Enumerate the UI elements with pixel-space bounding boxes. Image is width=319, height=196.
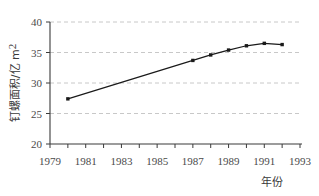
y-tick-labels: 40 35 30 25 20 [31, 16, 43, 150]
data-point-1989 [227, 48, 230, 51]
y-axis-title-group: 钉螺面积/亿 m2 [6, 44, 22, 122]
x-tick-label-1989: 1989 [218, 155, 241, 167]
data-point-1988 [209, 53, 212, 56]
y-axis-ticks [46, 22, 50, 144]
y-axis-title-main: 钉螺面积/亿 m [9, 49, 22, 122]
y-axis-title: 钉螺面积/亿 m2 [6, 44, 22, 122]
x-axis-ticks [50, 144, 300, 148]
x-axis-title: 年份 [261, 175, 283, 189]
x-tick-label-1985: 1985 [146, 155, 169, 167]
x-tick-label-1981: 1981 [75, 155, 97, 167]
y-tick-label-30: 30 [31, 77, 43, 89]
data-point-1987 [191, 59, 194, 62]
data-point-1990 [245, 44, 248, 47]
data-point-1980 [66, 97, 69, 100]
x-tick-label-1991: 1991 [253, 155, 275, 167]
y-tick-label-35: 35 [31, 47, 43, 59]
y-tick-label-40: 40 [31, 16, 43, 28]
data-point-1992 [280, 43, 283, 46]
x-tick-label-1979: 1979 [39, 155, 62, 167]
y-axis-title-superscript: 2 [6, 44, 18, 50]
chart-container: 40 35 30 25 20 1979 1981 1983 1985 1987 … [0, 0, 319, 196]
x-tick-label-1983: 1983 [110, 155, 133, 167]
x-tick-labels: 1979 1981 1983 1985 1987 1989 1991 1993 [39, 155, 312, 167]
x-tick-label-1993: 1993 [289, 155, 312, 167]
data-point-1991 [263, 42, 266, 45]
y-tick-label-20: 20 [31, 138, 43, 150]
x-tick-label-1987: 1987 [182, 155, 205, 167]
line-chart: 40 35 30 25 20 1979 1981 1983 1985 1987 … [0, 0, 319, 196]
y-tick-label-25: 25 [31, 108, 43, 120]
